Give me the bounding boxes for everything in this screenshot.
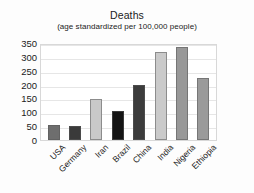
chart-title-block: Deaths (age standardized per 100,000 peo… xyxy=(0,9,254,32)
bars-group xyxy=(41,45,216,140)
y-axis-tick-label: 350 xyxy=(6,39,37,49)
y-axis-tick-label: 50 xyxy=(6,122,37,132)
x-axis: USAGermanyIranBrazilChinaIndiaNigeriaEth… xyxy=(40,143,217,191)
x-axis-tick-label: China xyxy=(132,143,154,165)
bar xyxy=(48,125,60,140)
bar xyxy=(133,85,145,140)
y-axis-tick-label: 0 xyxy=(6,136,37,146)
x-axis-tick-label: Iran xyxy=(94,143,111,160)
bar xyxy=(112,111,124,140)
y-axis: 050100150200250300350 xyxy=(6,44,37,141)
bar xyxy=(176,47,188,140)
bar xyxy=(155,52,167,140)
y-axis-tick-label: 200 xyxy=(6,81,37,91)
bar xyxy=(90,99,102,140)
chart-subtitle: (age standardized per 100,000 people) xyxy=(0,21,254,32)
y-axis-tick-label: 100 xyxy=(6,108,37,118)
y-axis-tick-label: 300 xyxy=(6,53,37,63)
bar xyxy=(197,78,209,140)
bar-chart: Deaths (age standardized per 100,000 peo… xyxy=(0,0,254,193)
y-axis-tick-label: 250 xyxy=(6,67,37,77)
y-axis-tick-label: 150 xyxy=(6,94,37,104)
bar xyxy=(69,126,81,140)
chart-title: Deaths xyxy=(0,9,254,21)
plot-area xyxy=(40,44,217,141)
x-axis-tick-label: Brazil xyxy=(111,143,132,164)
